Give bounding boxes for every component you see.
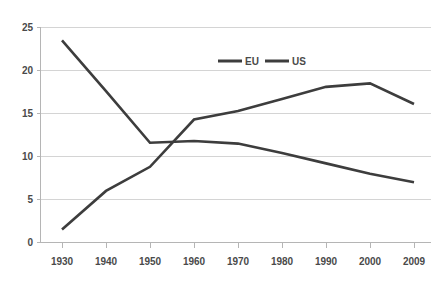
y-tick-label-25: 25	[22, 22, 34, 33]
x-tick-label-2009: 2009	[403, 256, 426, 267]
y-tick-label-10: 10	[22, 151, 34, 162]
x-axis: 1930 1940 1950 1960 1970 1980 1990 2000 …	[41, 243, 431, 268]
x-tick-label-1930: 1930	[51, 256, 74, 267]
y-tick-label-15: 15	[22, 108, 34, 119]
line-chart: 25 20 15 10 5 0 1930 1940 1950 1960 1970…	[0, 0, 448, 283]
y-tick-label-5: 5	[27, 194, 33, 205]
chart-canvas: 25 20 15 10 5 0 1930 1940 1950 1960 1970…	[0, 0, 448, 283]
y-axis: 25 20 15 10 5 0	[22, 22, 41, 248]
y-tick-label-20: 20	[22, 65, 34, 76]
x-tick-label-1950: 1950	[139, 256, 162, 267]
x-tick-label-1960: 1960	[183, 256, 206, 267]
x-tick-label-2000: 2000	[359, 256, 382, 267]
x-tick-label-1940: 1940	[95, 256, 118, 267]
legend: EU US	[218, 56, 306, 67]
series-lines	[62, 40, 414, 229]
x-tick-label-1970: 1970	[227, 256, 250, 267]
x-tick-label-1980: 1980	[271, 256, 294, 267]
legend-label-us: US	[292, 56, 306, 67]
y-tick-label-0: 0	[27, 237, 33, 248]
legend-label-eu: EU	[245, 56, 259, 67]
x-tick-label-1990: 1990	[315, 256, 338, 267]
